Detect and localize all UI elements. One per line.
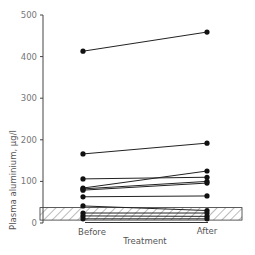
- series-line: [83, 196, 207, 197]
- y-tick-label: 500: [21, 10, 37, 20]
- y-axis-title: Plasma aluminium, µg/l: [8, 130, 18, 230]
- patient-series: [80, 141, 209, 157]
- after-point: [204, 193, 209, 198]
- before-point: [80, 203, 85, 208]
- after-point: [204, 29, 209, 34]
- after-point: [204, 180, 209, 185]
- y-tick-label: 400: [21, 52, 37, 62]
- series-line: [83, 183, 207, 190]
- paired-line-chart: 0100200300400500 Before After Treatment …: [0, 0, 255, 255]
- y-tick-label: 0: [32, 218, 37, 228]
- series-line: [83, 177, 207, 179]
- before-point: [80, 176, 85, 181]
- patient-series: [80, 193, 209, 199]
- x-axis-title: Treatment: [122, 236, 167, 246]
- normal-range-band: [40, 208, 242, 220]
- series-line: [83, 32, 207, 51]
- patient-series: [80, 175, 209, 182]
- y-tick-label: 300: [21, 93, 37, 103]
- x-label-before: Before: [78, 227, 106, 237]
- y-tick-label: 100: [21, 176, 37, 186]
- y-axis: 0100200300400500: [21, 10, 43, 228]
- after-point: [204, 141, 209, 146]
- before-point: [80, 188, 85, 193]
- series-line: [83, 143, 207, 154]
- y-tick-label: 200: [21, 135, 37, 145]
- before-point: [80, 49, 85, 54]
- x-label-after: After: [197, 226, 218, 236]
- after-point: [204, 168, 209, 173]
- before-point: [80, 194, 85, 199]
- after-point: [204, 216, 209, 221]
- before-point: [80, 151, 85, 156]
- before-point: [80, 216, 85, 221]
- patient-series: [80, 29, 209, 53]
- patient-series: [80, 168, 209, 190]
- data-series: [80, 29, 209, 221]
